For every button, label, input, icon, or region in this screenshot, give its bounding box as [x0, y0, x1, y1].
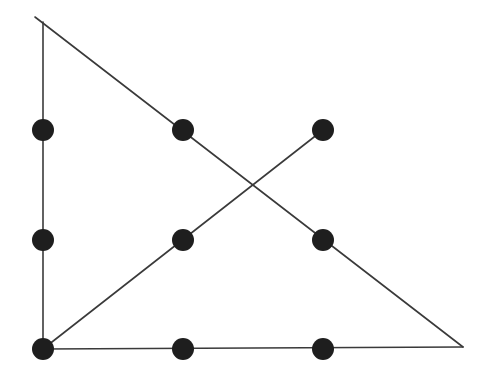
- dot-r2c2: [172, 229, 194, 251]
- dot-r2c3: [312, 229, 334, 251]
- dot-grid: [32, 119, 334, 360]
- line-bottom-horizontal: [43, 347, 463, 349]
- dot-r3c1: [32, 338, 54, 360]
- line-segments: [35, 17, 463, 349]
- dot-r3c2: [172, 338, 194, 360]
- nine-dots-diagram: [0, 0, 491, 386]
- dot-r1c2: [172, 119, 194, 141]
- dot-r1c1: [32, 119, 54, 141]
- dot-r1c3: [312, 119, 334, 141]
- line-long-diagonal: [35, 17, 463, 347]
- dot-r2c1: [32, 229, 54, 251]
- dot-r3c3: [312, 338, 334, 360]
